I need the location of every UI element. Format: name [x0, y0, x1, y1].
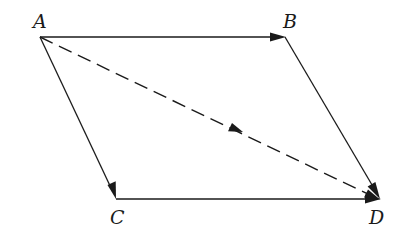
edge-a-c: [40, 37, 116, 199]
arrowhead-icon: [270, 33, 286, 42]
vertex-label-b: B: [282, 10, 297, 32]
vertex-label-d: D: [368, 206, 384, 228]
vector-parallelogram-diagram: A B C D: [0, 0, 403, 232]
vertex-label-c: C: [110, 206, 125, 228]
edge-c-d: [116, 195, 381, 204]
edge-a-b: [40, 33, 286, 42]
edge-b-d: [285, 37, 380, 199]
mid-arrowhead-icon: [228, 123, 243, 132]
diagonal-a-d: [40, 37, 380, 200]
vertex-label-a: A: [31, 10, 47, 32]
